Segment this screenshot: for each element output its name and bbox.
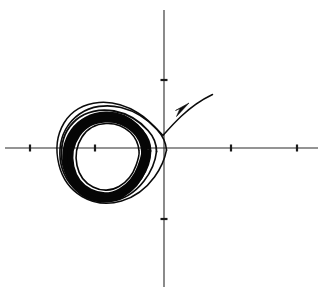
limit-cycle-group: [67, 116, 146, 198]
phase-portrait-figure: Phase plane portrait showing a trajector…: [0, 0, 325, 294]
phase-portrait-canvas: [0, 0, 325, 294]
axes-group: [5, 10, 318, 287]
limit-cycle-orbit-core: [70, 119, 144, 195]
